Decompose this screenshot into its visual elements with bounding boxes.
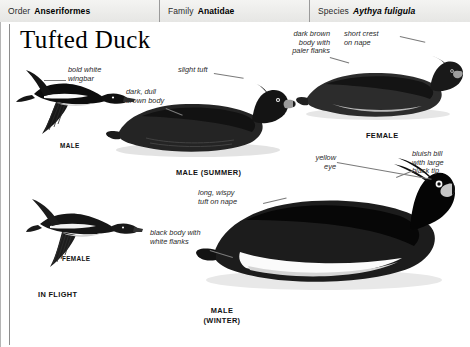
taxonomy-order-value: Anseriformes (34, 6, 90, 16)
caption-male-summer: MALE (SUMMER) (176, 168, 241, 177)
annotation-short-crest-on-nape: short crest on nape (344, 30, 408, 47)
caption-male-winter: MALE (WINTER) (176, 306, 268, 326)
caption-female-in-flight: FEMALE (62, 255, 90, 262)
page-title: Tufted Duck (20, 26, 151, 54)
annotation-black-body-white-flanks: black body with white flanks (150, 229, 232, 246)
taxonomy-family-label: Family (168, 6, 194, 16)
taxonomy-species-value: Aythya fuligula (353, 6, 415, 16)
annotation-slight-tuft: slight tuft (178, 66, 238, 75)
female-swimming-illustration (296, 50, 464, 128)
annotation-dark-dull-brown-body: dark, dull brown body (126, 88, 188, 105)
annotation-yellow-eye: yellow eye (296, 154, 336, 171)
taxonomy-order-label: Order (8, 6, 30, 16)
caption-male-in-flight: MALE (60, 142, 80, 149)
annotation-dark-brown-body-paler-flanks: dark brown body with paler flanks (268, 30, 330, 56)
taxonomy-species-cell: Species Aythya fuligula (310, 0, 470, 22)
taxonomy-family-value: Anatidae (198, 6, 235, 16)
annotation-bluish-bill-black-tip: bluish bill with large black tip (412, 150, 470, 176)
taxonomy-header: Order Anseriformes Family Anatidae Speci… (0, 0, 470, 23)
female-in-flight-illustration (26, 198, 144, 276)
caption-female-swimming: FEMALE (366, 131, 398, 140)
caption-in-flight: IN FLIGHT (38, 290, 77, 299)
field-guide-page: Order Anseriformes Family Anatidae Speci… (0, 0, 470, 347)
taxonomy-family-cell: Family Anatidae (160, 0, 310, 22)
taxonomy-order-cell: Order Anseriformes (0, 0, 160, 22)
left-margin-rule (9, 24, 10, 345)
taxonomy-species-label: Species (318, 6, 349, 16)
annotation-bold-white-wingbar: bold white wingbar (68, 66, 138, 83)
annotation-long-wispy-tuft-on-nape: long, wispy tuft on nape (198, 189, 264, 206)
leader-line-wingbar (44, 80, 66, 81)
